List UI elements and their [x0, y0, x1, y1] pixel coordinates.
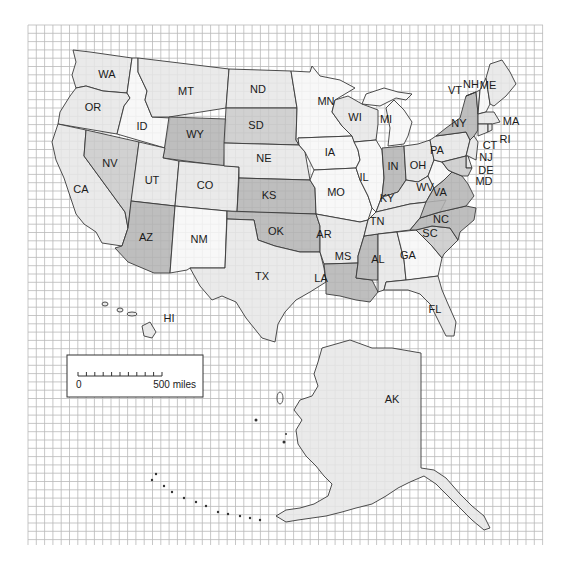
- state-wy[interactable]: [163, 117, 226, 166]
- state-label-oh: OH: [410, 159, 427, 171]
- state-label-ky: KY: [380, 192, 395, 204]
- state-label-ca: CA: [73, 183, 89, 195]
- state-label-nh: NH: [463, 78, 479, 90]
- state-ks[interactable]: [237, 178, 316, 214]
- state-label-al: AL: [371, 253, 384, 265]
- state-label-wy: WY: [186, 128, 204, 140]
- state-label-il: IL: [359, 171, 368, 183]
- state-label-ak: AK: [385, 393, 400, 405]
- scale-end-label: 500 miles: [153, 379, 196, 390]
- state-label-la: LA: [314, 272, 328, 284]
- state-label-ri: RI: [500, 133, 511, 145]
- scale-bar: 0 500 miles: [67, 355, 203, 397]
- state-label-vt: VT: [448, 84, 462, 96]
- state-label-wa: WA: [98, 68, 116, 80]
- state-label-ut: UT: [145, 174, 160, 186]
- state-label-mi: MI: [380, 113, 392, 125]
- scale-start-label: 0: [76, 379, 82, 390]
- us-map: WAORCAIDNVMTWYUTAZCONMNDSDNEKSOKTXMNIAMO…: [0, 0, 567, 570]
- state-label-ks: KS: [262, 189, 277, 201]
- state-label-co: CO: [197, 179, 214, 191]
- state-label-in: IN: [388, 160, 399, 172]
- state-label-va: VA: [433, 186, 448, 198]
- state-label-sd: SD: [248, 119, 263, 131]
- state-label-nc: NC: [433, 213, 449, 225]
- state-label-ne: NE: [256, 152, 271, 164]
- state-label-tx: TX: [255, 270, 270, 282]
- state-label-fl: FL: [429, 303, 442, 315]
- state-label-mt: MT: [178, 85, 194, 97]
- state-label-ar: AR: [316, 228, 331, 240]
- state-ri[interactable]: [488, 124, 492, 132]
- state-label-az: AZ: [139, 231, 153, 243]
- state-label-nj: NJ: [479, 151, 492, 163]
- state-label-id: ID: [137, 120, 148, 132]
- state-label-mn: MN: [317, 95, 334, 107]
- state-label-sc: SC: [422, 227, 437, 239]
- state-label-wi: WI: [348, 111, 361, 123]
- state-label-ok: OK: [268, 225, 285, 237]
- state-label-nv: NV: [102, 157, 118, 169]
- state-label-ms: MS: [335, 250, 352, 262]
- state-label-mo: MO: [327, 186, 345, 198]
- state-label-wv: WV: [416, 181, 434, 193]
- state-label-ia: IA: [325, 146, 336, 158]
- state-label-ga: GA: [400, 249, 417, 261]
- state-label-pa: PA: [430, 144, 445, 156]
- state-label-ma: MA: [503, 115, 520, 127]
- state-label-or: OR: [85, 101, 102, 113]
- state-label-me: ME: [480, 79, 497, 91]
- state-label-md: MD: [475, 175, 492, 187]
- state-label-nd: ND: [250, 83, 266, 95]
- state-label-hi: HI: [164, 312, 175, 324]
- state-label-ny: NY: [451, 117, 467, 129]
- state-label-nm: NM: [190, 233, 207, 245]
- state-label-ct: CT: [483, 139, 498, 151]
- state-label-tn: TN: [370, 215, 385, 227]
